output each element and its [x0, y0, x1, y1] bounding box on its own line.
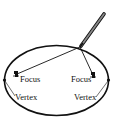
vertex-point-left — [3, 78, 6, 81]
vertex-label-right: Vertex — [74, 92, 97, 102]
vertex-label-left: Vertex — [15, 92, 38, 102]
vertex-point-right — [107, 78, 110, 81]
vertex-leader-right — [96, 81, 108, 97]
ellipse-diagram: Focus Focus Vertex Vertex — [0, 0, 113, 118]
pencil-icon — [80, 14, 104, 47]
focus-label-right: Focus — [71, 74, 91, 84]
focus-label-left: Focus — [20, 74, 40, 84]
